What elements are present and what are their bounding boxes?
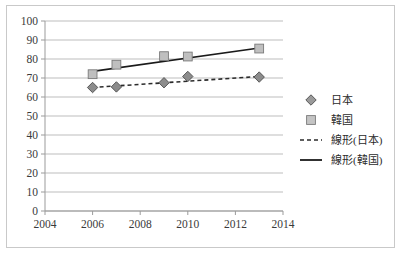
y-tick-label: 70 [27, 72, 39, 84]
y-axis-ticks [41, 21, 45, 211]
chart-canvas: 1009080706050403020100 20042006200820102… [0, 0, 405, 258]
x-axis-tick-labels: 200420062008201020122014 [34, 218, 295, 230]
x-tick-label: 2014 [272, 218, 295, 230]
legend-marker-diamond [306, 95, 316, 105]
data-point-square [255, 44, 264, 53]
y-tick-label: 20 [27, 167, 39, 179]
x-tick-label: 2004 [34, 218, 57, 230]
legend-label: 線形(日本) [331, 133, 383, 147]
data-point-square [160, 52, 169, 61]
x-tick-label: 2006 [81, 218, 104, 230]
y-tick-label: 80 [27, 53, 39, 65]
legend-label: 日本 [331, 93, 353, 106]
x-tick-label: 2010 [176, 218, 199, 230]
data-point-square [183, 52, 192, 61]
legend-label: 韓国 [331, 114, 353, 126]
y-tick-label: 60 [27, 91, 39, 103]
data-point-square [88, 70, 97, 79]
y-tick-label: 30 [27, 148, 39, 160]
y-tick-label: 90 [27, 34, 39, 46]
x-axis-ticks [45, 211, 283, 215]
y-tick-label: 40 [27, 129, 39, 141]
y-tick-label: 100 [21, 15, 39, 27]
y-tick-label: 10 [27, 186, 39, 198]
y-tick-label: 50 [27, 110, 39, 122]
x-tick-label: 2012 [224, 218, 247, 230]
y-axis-tick-labels: 1009080706050403020100 [21, 15, 39, 217]
y-tick-label: 0 [32, 205, 38, 217]
legend-label: 線形(韓国) [331, 153, 383, 167]
data-point-square [112, 60, 121, 69]
legend-marker-square [307, 116, 316, 125]
chart-legend: 日本韓国線形(日本)線形(韓国) [300, 93, 383, 167]
x-tick-label: 2008 [129, 218, 152, 230]
